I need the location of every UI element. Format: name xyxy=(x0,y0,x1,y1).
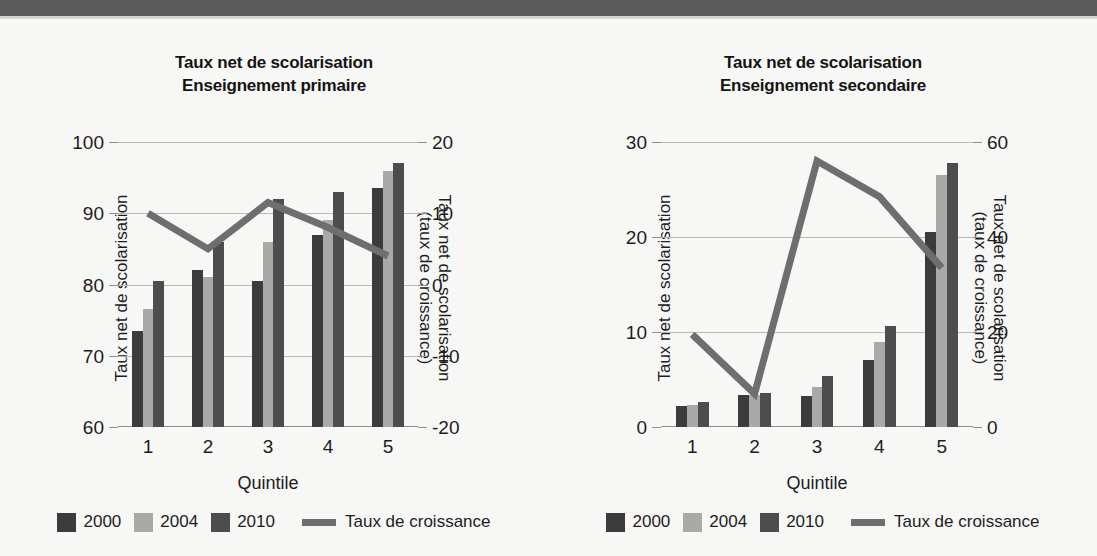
y-tick-left xyxy=(109,427,118,428)
legend-item-2010: 2010 xyxy=(760,512,824,532)
x-tick-label: 1 xyxy=(687,437,698,456)
y-tick-left xyxy=(109,356,118,357)
legend-item-2000: 2000 xyxy=(57,512,121,532)
y-tick-label-left: 90 xyxy=(83,204,104,223)
legend-swatch-growth-rate xyxy=(851,519,885,526)
x-tick-label: 5 xyxy=(937,437,948,456)
y-tick-right xyxy=(418,427,427,428)
y-tick-left xyxy=(652,142,661,143)
y-tick-left xyxy=(652,332,661,333)
figure-body: Taux net de scolarisation Enseignement p… xyxy=(0,19,1097,556)
legend-label-2010: 2010 xyxy=(786,512,824,532)
y-tick-label-right: 20 xyxy=(987,323,1008,342)
chart-title-secondary-line2: Enseignement secondaire xyxy=(549,74,1097,97)
legend-secondary: 2000 2004 2010 Taux de croissance xyxy=(549,512,1097,532)
growth-rate-line xyxy=(118,142,418,427)
legend-label-growth-rate: Taux de croissance xyxy=(345,512,491,532)
y-tick-right xyxy=(973,332,982,333)
legend-label-2000: 2000 xyxy=(83,512,121,532)
y-tick-left xyxy=(109,213,118,214)
chart-panel-primary: Taux net de scolarisation Enseignement p… xyxy=(0,19,548,556)
y-tick-label-left: 70 xyxy=(83,347,104,366)
y-tick-label-left: 30 xyxy=(626,133,647,152)
legend-label-growth-rate: Taux de croissance xyxy=(894,512,1040,532)
plot-area-primary: Quintile 60708090100-20-100102012345 xyxy=(118,142,418,427)
y-tick-label-right: -10 xyxy=(432,347,459,366)
y-tick-label-right: 0 xyxy=(432,276,443,295)
legend-swatch-2004 xyxy=(683,513,702,532)
legend-label-2004: 2004 xyxy=(160,512,198,532)
chart-title-primary: Taux net de scolarisation Enseignement p… xyxy=(0,51,548,97)
legend-swatch-2010 xyxy=(211,513,230,532)
legend-item-2004: 2004 xyxy=(134,512,198,532)
x-tick-label: 4 xyxy=(323,437,334,456)
legend-item-2010: 2010 xyxy=(211,512,275,532)
legend-label-2004: 2004 xyxy=(709,512,747,532)
y-tick-right xyxy=(418,142,427,143)
x-tick-label: 3 xyxy=(263,437,274,456)
growth-rate-line xyxy=(661,142,973,427)
chart-title-secondary-line1: Taux net de scolarisation xyxy=(724,53,922,72)
x-tick-label: 5 xyxy=(383,437,394,456)
chart-panel-secondary: Taux net de scolarisation Enseignement s… xyxy=(549,19,1097,556)
y-axis-label-right-secondary-line1: Taux net de scolarisation xyxy=(989,194,1008,381)
legend-swatch-2004 xyxy=(134,513,153,532)
top-banner xyxy=(0,0,1097,16)
x-tick-label: 4 xyxy=(874,437,885,456)
y-tick-label-right: -20 xyxy=(432,418,459,437)
y-tick-label-right: 20 xyxy=(432,133,453,152)
x-tick-label: 3 xyxy=(812,437,823,456)
y-tick-label-left: 10 xyxy=(626,323,647,342)
x-axis-label-primary: Quintile xyxy=(237,473,298,494)
y-tick-label-right: 40 xyxy=(987,228,1008,247)
legend-swatch-2010 xyxy=(760,513,779,532)
y-tick-right xyxy=(973,142,982,143)
legend-swatch-2000 xyxy=(57,513,76,532)
y-tick-left xyxy=(652,237,661,238)
legend-item-2000: 2000 xyxy=(606,512,670,532)
x-tick-label: 2 xyxy=(749,437,760,456)
y-tick-label-left: 20 xyxy=(626,228,647,247)
y-tick-label-left: 100 xyxy=(72,133,104,152)
y-tick-right xyxy=(418,285,427,286)
y-tick-right xyxy=(418,356,427,357)
y-tick-left xyxy=(109,285,118,286)
legend-swatch-growth-rate xyxy=(302,519,336,526)
chart-title-primary-line2: Enseignement primaire xyxy=(0,74,548,97)
figure-page: Taux net de scolarisation Enseignement p… xyxy=(0,0,1097,556)
y-tick-right xyxy=(973,427,982,428)
y-tick-label-right: 10 xyxy=(432,204,453,223)
plot-area-secondary: Quintile 0102030020406012345 xyxy=(661,142,973,427)
y-tick-left xyxy=(652,427,661,428)
y-tick-label-right: 0 xyxy=(987,418,998,437)
legend-primary: 2000 2004 2010 Taux de croissance xyxy=(0,512,548,532)
y-axis-label-right-secondary: Taux net de scolarisation (taux de crois… xyxy=(970,194,1008,381)
y-tick-label-left: 0 xyxy=(636,418,647,437)
chart-title-primary-line1: Taux net de scolarisation xyxy=(175,53,373,72)
chart-title-secondary: Taux net de scolarisation Enseignement s… xyxy=(549,51,1097,97)
legend-label-2000: 2000 xyxy=(632,512,670,532)
legend-label-2010: 2010 xyxy=(237,512,275,532)
x-tick-label: 1 xyxy=(143,437,154,456)
legend-item-growth-rate: Taux de croissance xyxy=(302,512,491,532)
y-tick-label-left: 60 xyxy=(83,418,104,437)
x-tick-label: 2 xyxy=(203,437,214,456)
y-tick-right xyxy=(418,213,427,214)
x-axis-label-secondary: Quintile xyxy=(786,473,847,494)
y-tick-label-left: 80 xyxy=(83,276,104,295)
y-tick-left xyxy=(109,142,118,143)
legend-item-2004: 2004 xyxy=(683,512,747,532)
legend-item-growth-rate: Taux de croissance xyxy=(851,512,1040,532)
y-tick-label-right: 60 xyxy=(987,133,1008,152)
y-tick-right xyxy=(973,237,982,238)
legend-swatch-2000 xyxy=(606,513,625,532)
